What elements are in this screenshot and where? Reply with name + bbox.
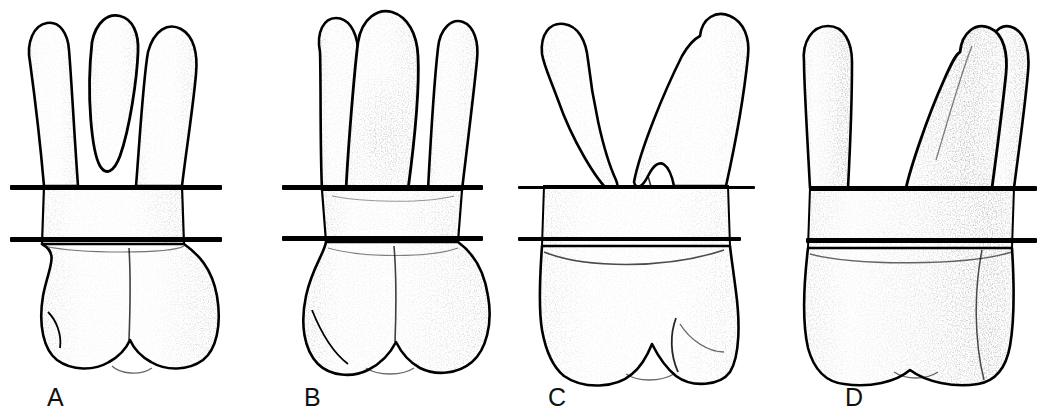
reference-line-c-upper [518,186,755,189]
crown-a [41,244,219,373]
cervix-b [322,190,462,242]
panel-label-b: B [304,385,321,410]
reference-line-b-lower [282,236,483,241]
reference-line-b-upper [282,185,483,190]
roots-b [319,11,477,190]
roots-d [804,26,1029,188]
panel-c: C [524,0,786,413]
panel-d: D [786,0,1047,413]
panel-a: A [0,0,262,413]
reference-line-d-lower [806,238,1037,243]
cervix-a [42,186,184,244]
panel-label-c: C [548,385,566,410]
crown-d [804,248,1013,385]
reference-line-a-lower [10,237,222,242]
reference-line-c-lower [518,237,741,241]
panel-b: B [262,0,524,413]
roots-a [29,15,197,186]
figure-plate: A [0,0,1047,413]
tooth-drawing-a [0,0,262,413]
reference-line-a-upper [10,185,222,190]
panel-label-d: D [845,385,863,410]
tooth-drawing-d [786,0,1047,413]
tooth-drawing-b [262,0,524,413]
panel-label-a: A [47,385,64,410]
reference-line-d-upper [810,186,1037,191]
crown-c [540,246,739,386]
tooth-drawing-c [524,0,786,413]
crown-b [303,242,489,375]
